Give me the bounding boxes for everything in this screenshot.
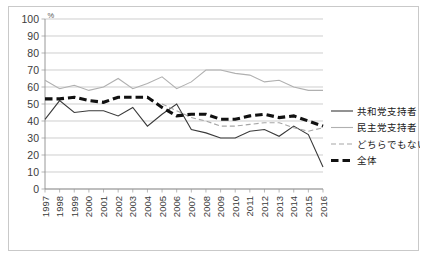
x-axis-label: 2001 [98,196,109,217]
x-axis-label: 2014 [288,196,299,217]
series-line-0 [45,101,323,167]
x-axis-label: 2006 [171,196,182,217]
x-axis-label: 2015 [303,196,314,217]
y-axis-label: 0 [33,183,39,195]
y-axis-label: 70 [27,64,39,76]
y-axis-label: 90 [27,30,39,42]
y-axis-label: 60 [27,81,39,93]
x-axis-label: 2010 [230,196,241,217]
x-axis-label: 2003 [127,196,138,217]
y-axis-label: 80 [27,47,39,59]
y-axis-unit-label: % [48,11,55,20]
chart-plot-area: 0102030405060708090100%19971998199920002… [9,7,420,252]
x-axis-label: 2002 [113,196,124,217]
legend-label-3: 全体 [357,155,377,166]
x-axis-label: 2007 [186,196,197,217]
x-axis-label: 2011 [244,196,255,216]
x-axis-label: 2016 [318,196,329,217]
x-axis-label: 2005 [157,196,168,217]
legend-label-2: どちらでもない [357,139,420,150]
legend-label-0: 共和党支持者 [357,106,417,117]
line-chart: 0102030405060708090100%19971998199920002… [9,7,420,252]
series-line-3 [45,97,323,126]
chart-container: 0102030405060708090100%19971998199920002… [8,6,419,251]
x-axis-label: 2004 [142,196,153,217]
x-axis-label: 1998 [54,196,65,217]
x-axis-label: 2012 [259,196,270,217]
y-axis-label: 30 [27,132,39,144]
x-axis-label: 2009 [215,196,226,217]
x-axis-label: 2008 [201,196,212,217]
y-axis-label: 10 [27,166,39,178]
y-axis-label: 100 [21,13,39,25]
x-axis-label: 2000 [83,196,94,217]
x-axis-label: 1999 [69,196,80,217]
y-axis-label: 20 [27,149,39,161]
x-axis-label: 1997 [40,196,51,217]
y-axis-label: 50 [27,98,39,110]
legend-label-1: 民主党支持者 [357,122,417,133]
series-line-2 [162,104,323,131]
x-axis-label: 2013 [274,196,285,217]
y-axis-label: 40 [27,115,39,127]
